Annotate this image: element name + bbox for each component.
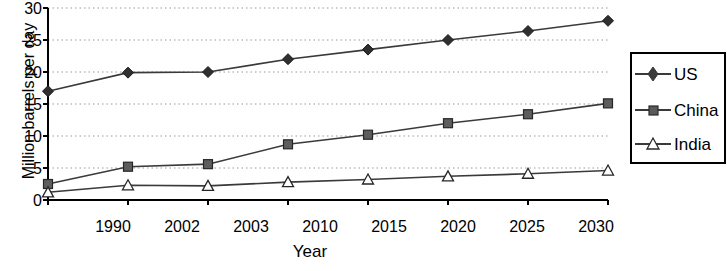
chart-plot-area: Million barrels per day Year 0 5 10 15 2…: [0, 0, 620, 271]
legend-item-china: China: [632, 92, 724, 128]
triangle-marker-icon: [632, 131, 674, 157]
data-point-us-2025: [523, 26, 534, 37]
legend-label-us: US: [674, 66, 698, 83]
chart-screenshot: Million barrels per day Year 0 5 10 15 2…: [0, 0, 727, 271]
data-point-us-2010: [283, 54, 294, 65]
data-point-china-2020: [444, 119, 453, 128]
legend-item-india: India: [632, 126, 724, 162]
x-tick-label-2010: 2010: [290, 218, 350, 236]
diamond-marker-icon: [632, 61, 674, 87]
x-tick-label-2020: 2020: [428, 218, 488, 236]
x-tick-label-2025: 2025: [497, 218, 557, 236]
y-tick-label-3: 15: [8, 96, 42, 114]
data-point-us-2020: [443, 35, 454, 46]
legend-label-china: China: [674, 102, 718, 119]
x-axis-title: Year: [0, 242, 620, 262]
legend-label-india: India: [674, 136, 711, 153]
x-tick-label-2003: 2003: [221, 218, 281, 236]
y-tick-label-5: 25: [8, 32, 42, 50]
data-point-china-2025: [524, 110, 533, 119]
data-point-us-2015: [363, 44, 374, 55]
square-marker-icon: [632, 97, 674, 123]
x-tick-label-1990: 1990: [83, 218, 143, 236]
y-tick-label-6: 30: [8, 0, 42, 18]
y-tick-label-4: 20: [8, 64, 42, 82]
legend-item-us: US: [632, 56, 724, 92]
chart-legend: US China India: [630, 52, 726, 164]
y-tick-label-1: 5: [8, 160, 42, 178]
data-point-china-2010: [284, 140, 293, 149]
x-tick-label-2002: 2002: [152, 218, 212, 236]
data-point-china-2030: [604, 99, 613, 108]
data-point-us-2003: [203, 67, 214, 78]
y-tick-label-2: 10: [8, 128, 42, 146]
y-tick-label-0: 0: [8, 192, 42, 210]
x-tick-label-2030: 2030: [566, 218, 626, 236]
data-point-us-1990: [43, 86, 54, 97]
data-point-china-2003: [204, 160, 213, 169]
data-point-china-2002: [124, 162, 133, 171]
data-point-china-2015: [364, 130, 373, 139]
data-point-us-2002: [123, 67, 134, 78]
x-tick-label-2015: 2015: [359, 218, 419, 236]
data-point-us-2030: [603, 15, 614, 26]
